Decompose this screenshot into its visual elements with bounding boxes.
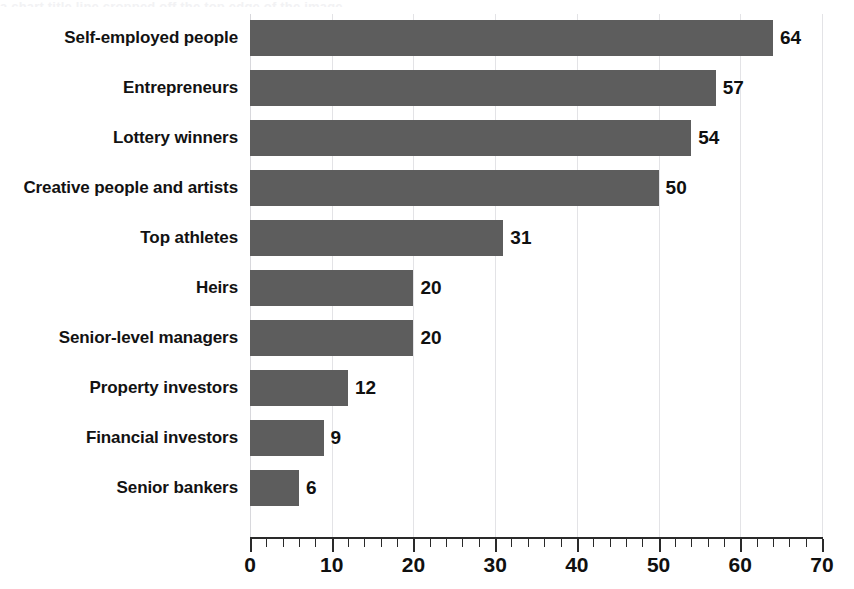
bar: [250, 370, 348, 406]
category-label: Financial investors: [0, 420, 238, 470]
bar-series: 645754503120201296: [250, 20, 822, 520]
tick-label: 10: [320, 552, 343, 578]
bar-row: 12: [250, 370, 822, 420]
minor-tick: [315, 539, 316, 547]
major-tick: [250, 539, 252, 552]
minor-tick: [430, 539, 431, 547]
category-label: Senior-level managers: [0, 320, 238, 370]
category-label: Senior bankers: [0, 470, 238, 520]
minor-tick: [544, 539, 545, 547]
minor-tick: [528, 539, 529, 547]
major-tick: [413, 539, 415, 552]
bar-row: 6: [250, 470, 822, 520]
bar-value-label: 9: [331, 426, 342, 450]
category-label: Lottery winners: [0, 120, 238, 170]
bar-value-label: 20: [420, 276, 441, 300]
major-tick: [659, 539, 661, 552]
bar-value-label: 64: [780, 26, 801, 50]
major-tick: [822, 539, 824, 552]
category-label: Self-employed people: [0, 20, 238, 70]
bar: [250, 470, 299, 506]
bar: [250, 120, 691, 156]
category-label: Entrepreneurs: [0, 70, 238, 120]
minor-tick: [266, 539, 267, 547]
major-tick: [495, 539, 497, 552]
bar-row: 54: [250, 120, 822, 170]
bar-value-label: 50: [666, 176, 687, 200]
bar-value-label: 20: [420, 326, 441, 350]
category-label: Heirs: [0, 270, 238, 320]
bar-row: 31: [250, 220, 822, 270]
bar: [250, 70, 716, 106]
minor-tick: [789, 539, 790, 547]
minor-tick: [610, 539, 611, 547]
bar-value-label: 57: [723, 76, 744, 100]
tick-label: 0: [244, 552, 256, 578]
bar-row: 57: [250, 70, 822, 120]
bar: [250, 270, 413, 306]
minor-tick: [479, 539, 480, 547]
minor-tick: [381, 539, 382, 547]
minor-tick: [511, 539, 512, 547]
minor-tick: [757, 539, 758, 547]
tick-label: 40: [565, 552, 588, 578]
bar-row: 20: [250, 270, 822, 320]
minor-tick: [364, 539, 365, 547]
minor-tick: [724, 539, 725, 547]
minor-tick: [691, 539, 692, 547]
bar-chart: a chart title line cropped off the top e…: [0, 0, 854, 589]
bar-value-label: 12: [355, 376, 376, 400]
minor-tick: [642, 539, 643, 547]
minor-tick: [773, 539, 774, 547]
minor-tick: [462, 539, 463, 547]
category-axis-labels: Self-employed peopleEntrepreneursLottery…: [0, 20, 238, 520]
tick-label: 50: [647, 552, 670, 578]
category-label: Property investors: [0, 370, 238, 420]
category-label: Top athletes: [0, 220, 238, 270]
minor-tick: [446, 539, 447, 547]
gridline: [822, 14, 823, 537]
category-label: Creative people and artists: [0, 170, 238, 220]
bar-row: 64: [250, 20, 822, 70]
bar: [250, 20, 773, 56]
minor-tick: [561, 539, 562, 547]
minor-tick: [708, 539, 709, 547]
bar: [250, 420, 324, 456]
bar-value-label: 31: [510, 226, 531, 250]
minor-tick: [806, 539, 807, 547]
x-axis-line: [250, 537, 823, 539]
major-tick: [332, 539, 334, 552]
bar: [250, 220, 503, 256]
bar: [250, 170, 659, 206]
bar: [250, 320, 413, 356]
bar-row: 9: [250, 420, 822, 470]
bar-row: 50: [250, 170, 822, 220]
minor-tick: [283, 539, 284, 547]
bar-value-label: 6: [306, 476, 317, 500]
cropped-title-remnant: a chart title line cropped off the top e…: [0, 0, 854, 7]
major-tick: [577, 539, 579, 552]
tick-label: 70: [810, 552, 833, 578]
minor-tick: [397, 539, 398, 547]
major-tick: [740, 539, 742, 552]
minor-tick: [348, 539, 349, 547]
plot-area: 645754503120201296: [250, 14, 822, 537]
minor-tick: [593, 539, 594, 547]
bar-row: 20: [250, 320, 822, 370]
bar-value-label: 54: [698, 126, 719, 150]
tick-label: 30: [483, 552, 506, 578]
minor-tick: [299, 539, 300, 547]
minor-tick: [626, 539, 627, 547]
tick-label: 20: [402, 552, 425, 578]
tick-label: 60: [729, 552, 752, 578]
minor-tick: [675, 539, 676, 547]
